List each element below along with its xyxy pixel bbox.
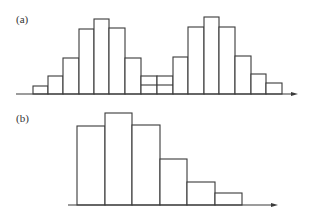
panel-label-b: (b) — [16, 113, 29, 124]
histogram-bar — [219, 27, 235, 94]
histogram-bar — [251, 74, 266, 94]
histogram-bar — [187, 182, 215, 205]
histogram-bar — [105, 113, 132, 205]
histogram-bar — [173, 57, 188, 94]
histogram-bar — [132, 125, 160, 205]
histogram-bar — [77, 126, 105, 205]
histogram-bar — [33, 86, 48, 94]
histogram-bar — [215, 193, 242, 205]
histogram-panel-a — [16, 17, 298, 96]
histogram-bar — [160, 159, 187, 205]
histogram-canvas — [0, 0, 310, 222]
histogram-bar — [204, 17, 219, 94]
panel-label-a: (a) — [16, 14, 28, 25]
histogram-bar — [266, 83, 282, 94]
histogram-bar — [48, 76, 63, 94]
histogram-bar — [109, 28, 125, 94]
histogram-bar — [63, 58, 79, 94]
histogram-bar — [188, 27, 204, 94]
histogram-bar — [79, 29, 94, 94]
x-axis-arrow-icon — [271, 203, 278, 207]
histogram-panel-b — [68, 113, 278, 207]
x-axis-arrow-icon — [291, 92, 298, 96]
histogram-bar — [235, 56, 251, 94]
histogram-bar — [125, 58, 141, 94]
histogram-bar — [94, 19, 109, 94]
